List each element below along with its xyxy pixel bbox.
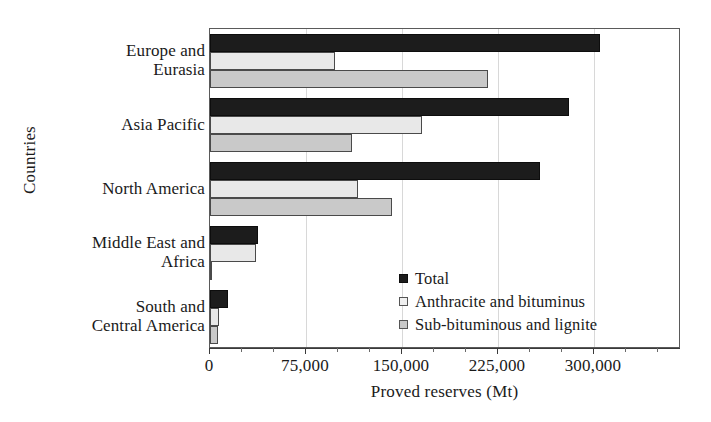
bar xyxy=(210,290,228,308)
bar xyxy=(210,34,600,52)
x-axis-tick-label: 0 xyxy=(205,356,214,376)
bar xyxy=(210,52,335,70)
legend-label: Total xyxy=(415,267,449,290)
legend-item: Sub-bituminous and lignite xyxy=(399,313,597,336)
bar xyxy=(210,226,258,244)
x-tick-minor xyxy=(273,348,274,352)
x-axis-line xyxy=(209,348,680,349)
x-axis-title: Proved reserves (Mt) xyxy=(209,382,680,402)
x-axis-tick-label: 150,000 xyxy=(373,356,430,376)
bar xyxy=(210,244,256,262)
y-axis-tick-label-line: Europe and xyxy=(55,41,205,60)
y-axis-tick-label-line: Middle East and xyxy=(55,233,205,252)
y-axis-tick-label: North America xyxy=(55,179,205,198)
x-tick-minor xyxy=(465,348,466,352)
x-axis-tick-label: 225,000 xyxy=(469,356,526,376)
x-tick-minor xyxy=(657,348,658,352)
chart-figure: Countries Europe andEurasiaAsia PacificN… xyxy=(0,0,711,422)
y-axis-tick-labels: Europe andEurasiaAsia PacificNorth Ameri… xyxy=(50,0,205,422)
legend-swatch-icon xyxy=(399,274,408,283)
y-axis-tick-label-line: North America xyxy=(55,179,205,198)
y-axis-tick-label-line: Eurasia xyxy=(55,60,205,79)
bar xyxy=(210,134,352,152)
x-tick-minor xyxy=(561,348,562,352)
x-tick-minor xyxy=(337,348,338,352)
bar xyxy=(210,308,219,326)
x-tick-minor xyxy=(529,348,530,352)
chart-legend: TotalAnthracite and bituminusSub-bitumin… xyxy=(399,267,597,336)
x-axis-tick-label: 300,000 xyxy=(565,356,622,376)
bar xyxy=(210,98,569,116)
x-tick-minor xyxy=(241,348,242,352)
bar xyxy=(210,326,218,344)
y-axis-title: Countries xyxy=(20,80,40,240)
bar xyxy=(210,262,212,280)
legend-swatch-icon xyxy=(399,297,408,306)
bar xyxy=(210,162,540,180)
y-axis-tick-label: Middle East andAfrica xyxy=(55,233,205,271)
bar xyxy=(210,198,392,216)
y-axis-tick-label-line: Africa xyxy=(55,252,205,271)
legend-label: Sub-bituminous and lignite xyxy=(415,313,597,336)
x-tick-minor xyxy=(433,348,434,352)
x-tick-major xyxy=(209,348,210,354)
y-axis-tick-label: Europe andEurasia xyxy=(55,41,205,79)
x-tick-major xyxy=(497,348,498,354)
legend-label: Anthracite and bituminus xyxy=(415,290,585,313)
x-axis-tick-label: 75,000 xyxy=(281,356,329,376)
legend-swatch-icon xyxy=(399,320,408,329)
x-tick-major xyxy=(593,348,594,354)
plot-area: TotalAnthracite and bituminusSub-bitumin… xyxy=(209,28,680,348)
y-axis-tick-label-line: Asia Pacific xyxy=(55,115,205,134)
bar xyxy=(210,180,358,198)
y-axis-tick-label: Asia Pacific xyxy=(55,115,205,134)
bar xyxy=(210,116,422,134)
y-axis-tick-label-line: South and xyxy=(55,297,205,316)
y-axis-tick-label: South andCentral America xyxy=(55,297,205,335)
x-tick-minor xyxy=(625,348,626,352)
x-tick-minor xyxy=(369,348,370,352)
y-axis-tick-label-line: Central America xyxy=(55,316,205,335)
legend-item: Anthracite and bituminus xyxy=(399,290,597,313)
x-tick-major xyxy=(401,348,402,354)
x-tick-major xyxy=(305,348,306,354)
legend-item: Total xyxy=(399,267,597,290)
bar xyxy=(210,70,488,88)
